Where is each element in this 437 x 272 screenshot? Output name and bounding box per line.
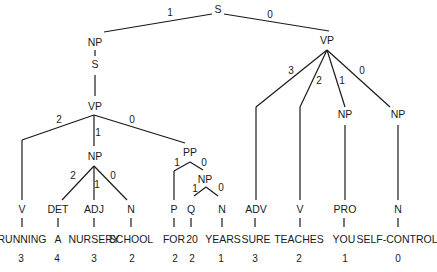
- pos-p: P: [170, 203, 177, 215]
- node-np-object: NP: [88, 150, 103, 162]
- pos-adv: ADV: [245, 203, 267, 215]
- edge-label-vpe-np: 1: [95, 127, 101, 138]
- edge-label-vp-adv: 3: [288, 65, 294, 76]
- depth-nursery: 3: [91, 253, 97, 264]
- word-a: A: [54, 233, 61, 245]
- depth-a: 4: [54, 253, 60, 264]
- word-running: RUNNING: [0, 233, 47, 245]
- node-np-you: NP: [338, 108, 353, 120]
- word-20: 20: [186, 233, 198, 245]
- edge-label-vpe-pp: 0: [129, 114, 135, 125]
- depth-20: 2: [189, 253, 195, 264]
- node-vp-main: VP: [320, 34, 334, 46]
- edge-np-n-years: [206, 187, 218, 196]
- depth-sure: 3: [252, 253, 258, 264]
- word-selfcontrol: SELF-CONTROL: [356, 233, 437, 245]
- edge-label-np-n: 0: [110, 170, 116, 181]
- leaf-words: RUNNING A NURSERY SCHOOL FOR 20 YEARS SU…: [0, 233, 437, 245]
- edge-vp-v-teaches-a: [300, 50, 327, 107]
- edge-vp-pp: [94, 115, 185, 143]
- word-teaches: TEACHES: [274, 233, 324, 245]
- pos-n-school: N: [127, 203, 135, 215]
- edge-label-s-np: 1: [167, 7, 173, 18]
- pos-det: DET: [48, 203, 70, 215]
- word-for: FOR: [163, 233, 186, 245]
- depth-for: 2: [172, 253, 178, 264]
- node-np-selfcontrol: NP: [391, 108, 406, 120]
- edge-label-vp-np1: 1: [339, 75, 345, 86]
- tree-edges: [22, 14, 398, 227]
- edge-label-pp-p: 1: [174, 157, 180, 168]
- tree-nodes: S NP S VP VP NP PP NP NP NP V DET ADJ N …: [18, 3, 405, 215]
- depth-teaches: 2: [296, 253, 302, 264]
- edge-label-np-adj: 1: [94, 179, 100, 190]
- depth-school: 2: [129, 253, 135, 264]
- pos-n-selfcontrol: N: [394, 203, 402, 215]
- depth-years: 1: [218, 253, 224, 264]
- node-vp-embedded: VP: [88, 100, 102, 112]
- node-np-subject: NP: [88, 36, 103, 48]
- edge-s-np: [104, 14, 212, 32]
- depth-running: 3: [18, 253, 24, 264]
- pos-q: Q: [187, 203, 195, 215]
- depth-numbers: 3 4 3 2 2 2 1 3 2 1 0: [18, 253, 401, 264]
- node-pp: PP: [183, 146, 197, 158]
- word-school: SCHOOL: [109, 233, 154, 245]
- pos-v-teaches: V: [296, 203, 303, 215]
- depth-you: 1: [342, 253, 348, 264]
- edge-label-vp-np0: 0: [359, 65, 365, 76]
- word-years: YEARS: [205, 233, 241, 245]
- edge-s-vp: [224, 14, 329, 31]
- edge-np-det: [62, 166, 94, 200]
- word-sure: SURE: [241, 233, 270, 245]
- pos-v-running: V: [18, 203, 25, 215]
- edge-label-s-vp: 0: [267, 9, 273, 20]
- node-s-root: S: [214, 3, 221, 15]
- edge-label-vpe-v: 2: [56, 114, 62, 125]
- edge-label-vp-v: 2: [316, 75, 322, 86]
- edge-label-nppp-q: 1: [192, 183, 198, 194]
- pos-pro: PRO: [334, 203, 357, 215]
- word-you: YOU: [333, 233, 356, 245]
- edge-label-nppp-n: 0: [218, 182, 224, 193]
- edge-label-np-det: 2: [70, 170, 76, 181]
- parse-tree-diagram: S NP S VP VP NP PP NP NP NP V DET ADJ N …: [0, 0, 437, 272]
- depth-selfcontrol: 0: [395, 253, 401, 264]
- pos-n-years: N: [218, 203, 226, 215]
- node-s-embedded: S: [91, 58, 98, 70]
- pos-adj: ADJ: [84, 203, 104, 215]
- edge-labels: 1 0 2 1 0 2 1 0 1 0 1 0 3 2 1 0: [56, 7, 365, 194]
- node-np-pp: NP: [198, 173, 213, 185]
- edge-label-pp-np: 0: [201, 157, 207, 168]
